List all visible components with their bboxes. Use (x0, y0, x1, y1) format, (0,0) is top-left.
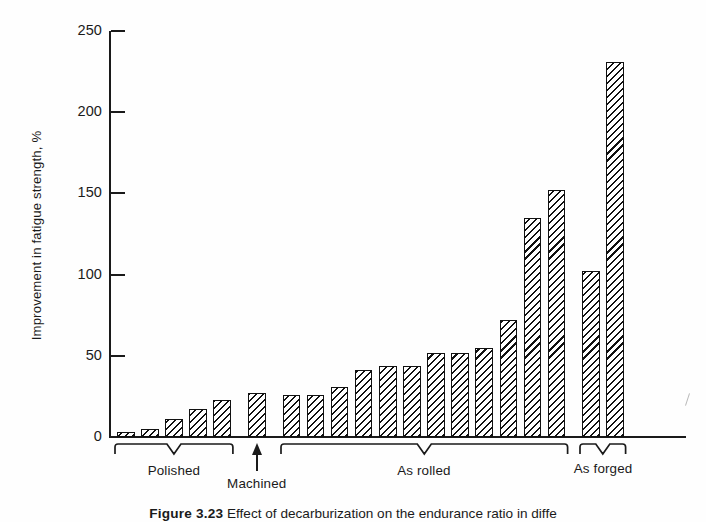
bar-R3 (331, 387, 349, 437)
y-tick-label-150: 150 (52, 185, 102, 199)
bar-R11 (524, 218, 542, 437)
bar-R7 (427, 353, 445, 437)
group-bracket-polished (114, 443, 234, 465)
bar-M1 (248, 393, 266, 437)
bar-series (111, 31, 686, 437)
bar-P2 (141, 429, 159, 437)
caption-label: Figure 3.23 (149, 506, 223, 521)
bar-P5 (213, 400, 231, 437)
bar-R5 (379, 366, 397, 437)
y-tick-label-250: 250 (52, 23, 102, 37)
bar-F2 (606, 62, 624, 437)
bar-R2 (307, 395, 325, 437)
y-tick-label-50: 50 (52, 348, 102, 362)
caption-text: Effect of decarburization on the enduran… (227, 506, 557, 521)
y-tick-label-0: 0 (52, 429, 102, 443)
machined-arrow-icon (249, 443, 265, 471)
bar-P3 (165, 419, 183, 437)
bar-R10 (500, 320, 518, 437)
group-label-machined: Machined (147, 476, 367, 491)
bar-F1 (582, 271, 600, 437)
bar-R1 (283, 395, 301, 437)
bar-P4 (189, 409, 207, 437)
group-label-as-forged: As forged (493, 461, 706, 476)
y-tick-label-200: 200 (52, 104, 102, 118)
y-tick-label-100: 100 (52, 267, 102, 281)
bar-R6 (403, 366, 421, 437)
bar-R4 (355, 370, 373, 437)
y-axis-title: Improvement in fatigue strength, % (29, 46, 44, 426)
figure-container: Improvement in fatigue strength, % 05010… (0, 0, 706, 522)
bar-R8 (451, 353, 469, 437)
bar-R12 (548, 190, 566, 437)
bar-P1 (117, 432, 135, 437)
bar-R9 (475, 348, 493, 437)
figure-caption: Figure 3.23 Effect of decarburization on… (0, 506, 706, 521)
